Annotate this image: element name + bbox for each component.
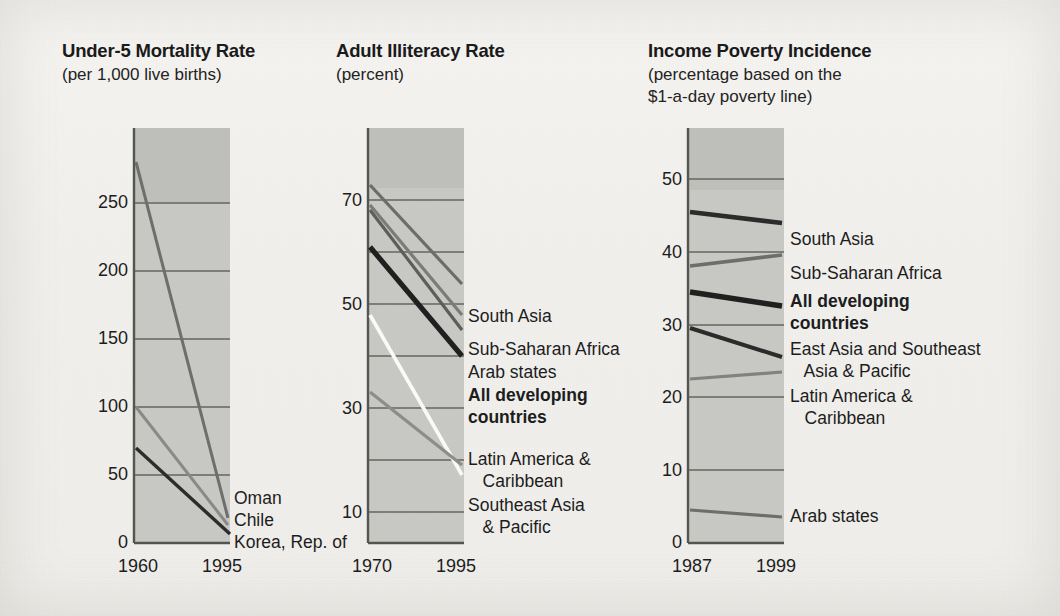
plot-band-3-top (688, 128, 784, 190)
legend-label-east-asia-3: East Asia and Southeast Asia & Pacific (790, 338, 981, 383)
ytick-50-panel-3: 50 (626, 169, 682, 190)
legend-label-all-developing-3: All developing countries (790, 290, 910, 335)
legend-label-latin-america-3: Latin America & Caribbean (790, 385, 913, 430)
legend-label-arab-states-3: Arab states (790, 505, 879, 527)
ytick-40-panel-3: 40 (626, 242, 682, 263)
xtick-1987-panel-3: 1987 (672, 556, 712, 577)
xtick-1999-panel-3: 1999 (756, 556, 796, 577)
legend-label-sub-saharan-africa-3: Sub-Saharan Africa (790, 262, 942, 284)
ytick-30-panel-3: 30 (626, 315, 682, 336)
ytick-0-panel-3: 0 (626, 532, 682, 553)
plot-band-3 (688, 128, 784, 543)
legend-label-south-asia-3: South Asia (790, 228, 874, 250)
ytick-20-panel-3: 20 (626, 387, 682, 408)
ytick-10-panel-3: 10 (626, 460, 682, 481)
